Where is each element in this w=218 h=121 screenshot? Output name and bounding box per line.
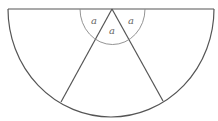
middle-angle-label: a xyxy=(109,25,115,36)
right-angle-label: a xyxy=(128,15,134,26)
left-angle-label: a xyxy=(91,15,97,26)
left-radius-line xyxy=(61,9,112,102)
semicircle-diagram: a a a xyxy=(0,0,218,121)
right-radius-line xyxy=(112,9,163,101)
